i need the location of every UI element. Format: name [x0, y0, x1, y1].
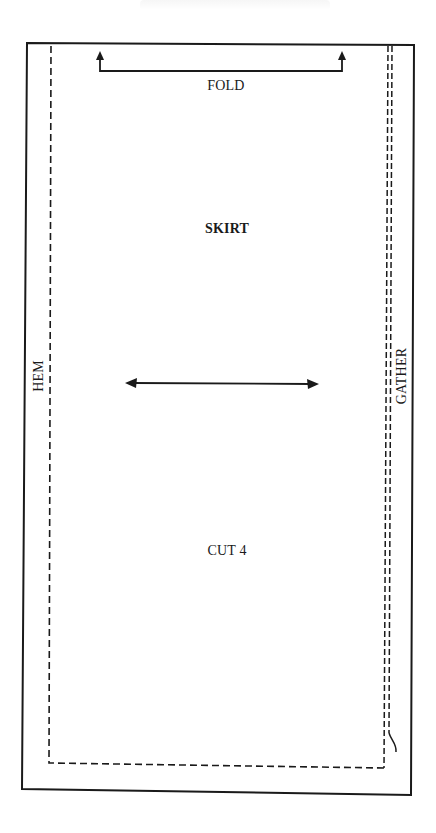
grainline-arrowhead-right-icon: [307, 379, 319, 389]
fold-bracket: [100, 58, 342, 71]
grainline-arrow: [133, 383, 311, 384]
hem-stitch-line: [49, 46, 384, 768]
fold-arrow-right-icon: [338, 51, 346, 60]
fold-arrow-left-icon: [96, 51, 104, 60]
pattern-outline: [22, 43, 414, 795]
cut-instruction-label: CUT 4: [207, 544, 246, 558]
gather-line-inner: [389, 46, 392, 733]
gather-line-outer: [384, 46, 388, 768]
pattern-piece-drawing: [0, 0, 436, 833]
gather-label: GATHER: [395, 348, 409, 404]
hem-label: HEM: [32, 360, 46, 392]
piece-name-label: SKIRT: [205, 222, 249, 236]
fold-label: FOLD: [207, 79, 244, 93]
gather-thread-end: [389, 733, 396, 752]
grainline-arrowhead-left-icon: [125, 378, 137, 388]
